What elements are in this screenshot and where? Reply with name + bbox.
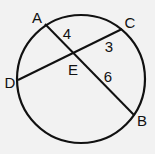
segment-length-ec: 3 <box>105 38 113 55</box>
point-label-b: B <box>137 112 147 129</box>
intersecting-chords-diagram: A B C D E 4 3 6 <box>0 0 155 154</box>
point-label-e: E <box>68 61 78 78</box>
point-label-a: A <box>32 9 42 26</box>
point-label-d: D <box>5 74 16 91</box>
segment-length-eb: 6 <box>104 68 112 85</box>
point-label-c: C <box>125 14 136 31</box>
segment-length-ae: 4 <box>63 25 71 42</box>
circle <box>17 15 145 143</box>
chord-ab <box>45 24 134 115</box>
diagram-canvas: A B C D E 4 3 6 <box>0 0 155 154</box>
